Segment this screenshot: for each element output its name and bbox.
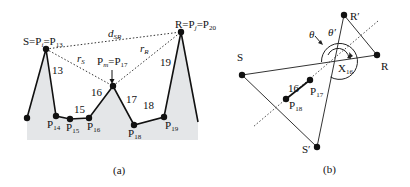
- point-p17: [110, 83, 116, 89]
- theta-prime-arc: [328, 48, 349, 58]
- point-left: [24, 115, 30, 121]
- label-d-sr: dSR: [108, 27, 122, 41]
- line-s-sp: [242, 75, 317, 147]
- label-r-r: rR: [140, 42, 149, 56]
- label-seg15: 15: [74, 103, 86, 115]
- label-seg19: 19: [160, 56, 172, 68]
- label-r-b: R: [381, 60, 389, 72]
- label-seg13: 13: [52, 64, 64, 76]
- label-s: S=Pi=P13: [23, 35, 63, 49]
- caption-a: (a): [113, 164, 126, 177]
- label-seg18: 18: [143, 99, 155, 111]
- label-r-s: rS: [77, 52, 85, 66]
- label-seg16-b: 16: [288, 82, 300, 94]
- point-sp: [314, 144, 320, 150]
- point-p14: [53, 113, 59, 119]
- point-r-b: [374, 52, 380, 58]
- label-p18-b: P18: [289, 99, 303, 113]
- point-p17-b: [307, 77, 313, 83]
- point-s-b: [239, 72, 245, 78]
- line-rp-r: [344, 15, 377, 55]
- label-x16: X16: [338, 62, 353, 76]
- label-p17-b: P17: [310, 85, 324, 99]
- label-seg17: 17: [126, 93, 138, 105]
- panel-a: S=Pi=P13 R=Pj=P20 dSR rS rR Pm=P17 P14 P…: [23, 18, 216, 177]
- label-theta: θ: [309, 28, 315, 40]
- figure-canvas: S=Pi=P13 R=Pj=P20 dSR rS rR Pm=P17 P14 P…: [0, 0, 410, 187]
- label-theta-prime: θ′: [328, 26, 336, 38]
- label-seg16: 16: [91, 86, 103, 98]
- label-sp: S′: [302, 143, 311, 155]
- point-rp: [341, 12, 347, 18]
- label-s-b: S: [237, 51, 243, 63]
- panel-b: S R R′ S′ X16 θ θ′ P17 P18 16 (b): [237, 10, 389, 176]
- caption-b: (b): [323, 163, 336, 176]
- label-rp: R′: [350, 10, 360, 22]
- label-r: R=Pj=P20: [175, 18, 216, 32]
- label-pm: Pm=P17: [97, 55, 128, 69]
